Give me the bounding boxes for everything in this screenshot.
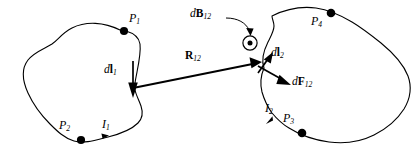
r12-vector-line: [133, 64, 255, 89]
label-i2: I2: [265, 102, 273, 114]
label-dl2: dl2: [271, 47, 284, 59]
df12-vector-arrowhead: [276, 75, 291, 85]
db12-leader-arrowhead: [246, 28, 253, 36]
label-dl1: dl1: [104, 64, 117, 76]
label-p3: P3: [283, 112, 294, 124]
current-direction-arrowhead-i2: [266, 116, 273, 124]
label-r12: R12: [185, 50, 201, 62]
physics-figure: P1 P2 I1 P4 P3 I2 dl1 dl2 dB12 dF12 R12: [0, 0, 419, 149]
node-dot-p1: [120, 27, 128, 35]
node-dot-p2: [77, 136, 85, 144]
node-dot-p3: [298, 129, 307, 138]
label-p4: P4: [311, 15, 322, 27]
db12-leader-curve: [226, 18, 249, 30]
label-p1: P1: [129, 12, 140, 24]
current-loop-1-path: [23, 23, 142, 142]
label-p2: P2: [59, 119, 70, 131]
field-out-of-page-dot: [248, 41, 253, 46]
label-db12: dB12: [190, 8, 211, 20]
node-dot-p4: [327, 9, 336, 18]
label-i1: I1: [102, 118, 110, 130]
label-df12: dF12: [292, 76, 312, 88]
